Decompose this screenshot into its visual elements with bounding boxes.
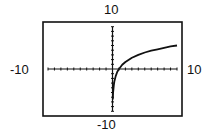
function-curve (113, 46, 177, 100)
graph-plot (0, 0, 213, 133)
